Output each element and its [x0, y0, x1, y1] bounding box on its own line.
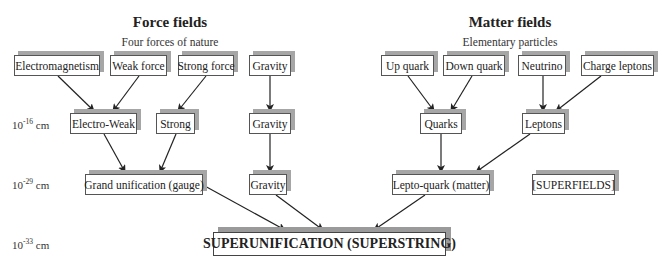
node-superunification: SUPERUNIFICATION (SUPERSTRING) — [213, 232, 446, 256]
node-electro-weak: Electro-Weak — [70, 113, 137, 134]
node-superfields: [SUPERFIELDS] — [532, 174, 615, 195]
node-up-quark: Up quark — [381, 55, 434, 76]
node-charge-leptons: Charge leptons — [581, 55, 654, 76]
node-weak-force: Weak force — [110, 55, 167, 76]
node-neutrino: Neutrino — [518, 55, 566, 76]
node-electromagnetism: Electromagnetism — [14, 55, 100, 76]
node-gravity-mid: Gravity — [249, 113, 291, 134]
node-down-quark: Down quark — [443, 55, 505, 76]
node-strong-force: Strong force — [178, 55, 234, 76]
node-grand-unification: Grand unification (gauge) — [85, 174, 203, 195]
node-lepto-quark: Lepto-quark (matter) — [392, 174, 490, 195]
node-strong: Strong — [156, 113, 195, 134]
node-leptons: Leptons — [522, 113, 565, 134]
node-quarks: Quarks — [420, 113, 462, 134]
node-gravity-top: Gravity — [249, 55, 291, 76]
node-gravity-low: Gravity — [249, 174, 287, 195]
